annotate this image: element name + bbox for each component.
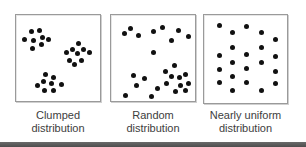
dot-marker	[122, 31, 127, 36]
caption-line-2: distribution	[196, 122, 296, 135]
dot-marker	[123, 93, 128, 98]
dot-marker	[186, 81, 191, 86]
dot-marker	[186, 34, 191, 39]
dot-marker	[169, 38, 174, 43]
dot-marker	[177, 75, 182, 80]
dot-marker	[178, 83, 183, 88]
dot-marker	[134, 83, 139, 88]
bottom-dark-strip	[0, 142, 306, 147]
dot-marker	[244, 24, 249, 29]
dot-marker	[230, 60, 235, 65]
dot-marker	[51, 75, 56, 80]
dot-marker	[46, 37, 51, 42]
dot-marker	[41, 79, 46, 84]
dot-marker	[40, 35, 45, 40]
dot-marker	[59, 82, 64, 87]
dot-marker	[70, 47, 75, 52]
dot-marker	[169, 74, 174, 79]
dot-marker	[173, 89, 178, 94]
caption-line-2: distribution	[8, 122, 108, 135]
dot-marker	[67, 58, 72, 63]
dot-marker	[259, 30, 264, 35]
nearly-uniform-caption: Nearly uniform distribution	[196, 109, 296, 135]
dot-marker	[259, 60, 264, 65]
dot-marker	[230, 88, 235, 93]
dot-marker	[183, 72, 188, 77]
dot-marker	[217, 23, 222, 28]
dot-marker	[183, 88, 188, 93]
dot-marker	[273, 69, 278, 74]
dot-marker	[176, 28, 181, 33]
dot-marker	[128, 26, 133, 31]
dot-marker	[151, 50, 156, 55]
dot-marker	[149, 94, 154, 99]
clumped-caption: Clumped distribution	[8, 109, 108, 135]
dot-marker	[230, 74, 235, 79]
dot-marker	[72, 62, 77, 67]
dot-marker	[244, 52, 249, 57]
dot-marker	[39, 42, 44, 47]
dot-marker	[172, 63, 177, 68]
dot-marker	[259, 45, 264, 50]
clumped-distribution-panel	[15, 14, 101, 102]
dot-marker	[75, 51, 80, 56]
dot-marker	[259, 88, 264, 93]
dot-marker	[160, 25, 165, 30]
dot-marker	[64, 50, 69, 55]
dot-marker	[244, 66, 249, 71]
dot-marker	[51, 88, 56, 93]
dot-marker	[22, 37, 27, 42]
dot-marker	[230, 45, 235, 50]
dot-marker	[37, 28, 42, 33]
dot-marker	[273, 37, 278, 42]
dot-marker	[163, 69, 168, 74]
caption-line-1: Clumped	[8, 109, 108, 122]
caption-line-1: Random	[103, 109, 203, 122]
nearly-uniform-distribution-panel	[203, 14, 288, 104]
dot-marker	[49, 81, 54, 86]
random-distribution-panel	[110, 14, 196, 102]
dot-marker	[217, 67, 222, 72]
dot-marker	[29, 29, 34, 34]
dot-marker	[87, 50, 92, 55]
dot-marker	[35, 83, 40, 88]
dot-marker	[131, 73, 136, 78]
dot-marker	[142, 76, 147, 81]
dot-marker	[81, 47, 86, 52]
caption-line-2: distribution	[103, 122, 203, 135]
dot-marker	[79, 58, 84, 63]
dot-marker	[43, 72, 48, 77]
dot-marker	[42, 88, 47, 93]
random-caption: Random distribution	[103, 109, 203, 135]
dot-marker	[151, 29, 156, 34]
caption-line-1: Nearly uniform	[196, 109, 296, 122]
dot-marker	[217, 53, 222, 58]
dot-marker	[164, 81, 169, 86]
dot-marker	[136, 33, 141, 38]
dot-marker	[30, 46, 35, 51]
dot-marker	[217, 80, 222, 85]
dot-marker	[273, 54, 278, 59]
dot-marker	[230, 30, 235, 35]
dot-marker	[273, 81, 278, 86]
dot-marker	[31, 38, 36, 43]
dot-marker	[155, 86, 160, 91]
dot-marker	[76, 41, 81, 46]
dot-marker	[244, 80, 249, 85]
